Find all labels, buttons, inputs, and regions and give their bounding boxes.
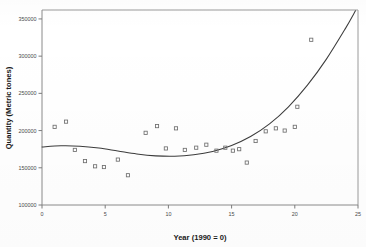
plot-frame bbox=[42, 10, 358, 205]
data-point-marker bbox=[93, 165, 96, 168]
data-point-marker bbox=[238, 148, 241, 151]
y-axis-ticks: 100000150000200000250000300000350000 bbox=[19, 16, 43, 208]
data-point-marker bbox=[164, 147, 167, 150]
data-point-marker bbox=[102, 165, 105, 168]
data-point-marker bbox=[296, 105, 299, 108]
y-tick-label: 200000 bbox=[19, 128, 37, 134]
y-tick-label: 300000 bbox=[19, 53, 37, 59]
data-point-marker bbox=[53, 125, 56, 128]
scatter-plot-figure: 100000150000200000250000300000350000 051… bbox=[0, 0, 366, 247]
data-point-marker bbox=[310, 38, 313, 41]
data-point-marker bbox=[64, 120, 67, 123]
x-tick-label: 20 bbox=[292, 211, 298, 217]
data-point-marker bbox=[116, 158, 119, 161]
data-point-marker bbox=[264, 130, 267, 133]
x-axis-title: Year (1990 = 0) bbox=[174, 233, 227, 242]
x-tick-label: 25 bbox=[355, 211, 361, 217]
x-axis-ticks: 0510152025 bbox=[41, 205, 362, 217]
data-point-marker bbox=[245, 161, 248, 164]
data-point-marker bbox=[205, 143, 208, 146]
data-point-marker bbox=[83, 159, 86, 162]
y-tick-label: 350000 bbox=[19, 16, 37, 22]
data-point-marker bbox=[155, 125, 158, 128]
x-tick-label: 0 bbox=[41, 211, 44, 217]
y-axis-title: Quantity (Metric tones) bbox=[4, 66, 13, 149]
data-point-marker bbox=[73, 148, 76, 151]
data-point-marker bbox=[126, 174, 129, 177]
data-point-marker bbox=[254, 139, 257, 142]
x-tick-label: 15 bbox=[229, 211, 235, 217]
x-tick-label: 10 bbox=[165, 211, 171, 217]
data-point-marker bbox=[183, 148, 186, 151]
data-point-marker bbox=[293, 125, 296, 128]
y-tick-label: 100000 bbox=[19, 202, 37, 208]
data-point-marker bbox=[231, 149, 234, 152]
x-tick-label: 5 bbox=[104, 211, 107, 217]
data-point-marker bbox=[274, 127, 277, 130]
data-point-marker bbox=[174, 127, 177, 130]
plot-canvas: 100000150000200000250000300000350000 051… bbox=[0, 0, 366, 247]
fitted-trend-curve bbox=[42, 11, 355, 157]
data-point-marker bbox=[195, 146, 198, 149]
y-tick-label: 250000 bbox=[19, 90, 37, 96]
y-tick-label: 150000 bbox=[19, 165, 37, 171]
data-point-marker bbox=[144, 131, 147, 134]
data-point-marker bbox=[283, 129, 286, 132]
